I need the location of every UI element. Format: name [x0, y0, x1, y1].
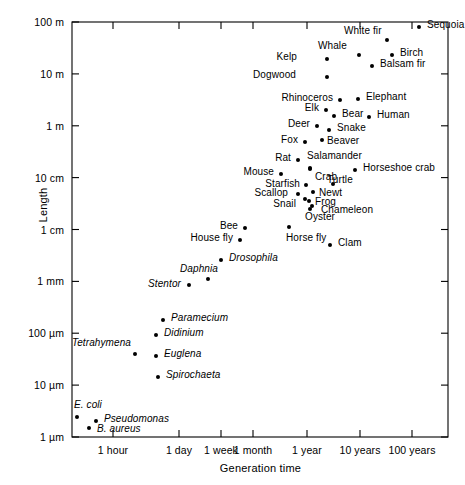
- data-point: [296, 192, 300, 196]
- data-point-label: Horse fly: [286, 233, 326, 243]
- data-point: [325, 75, 329, 79]
- data-point-label: Clam: [338, 238, 362, 248]
- data-point: [367, 115, 371, 119]
- data-point: [332, 114, 336, 118]
- data-point-label: Turtle: [327, 175, 353, 185]
- data-point: [308, 167, 312, 171]
- data-point-label: Human: [377, 110, 410, 120]
- x-tick-label: 100 years: [367, 444, 457, 456]
- data-point-label: Salamander: [307, 151, 362, 161]
- data-point-label: Stentor: [0, 279, 181, 289]
- data-point: [353, 168, 357, 172]
- data-point: [307, 199, 311, 203]
- data-point-label: House fly: [0, 233, 233, 243]
- data-point: [287, 225, 291, 229]
- data-point-label: Birch: [400, 48, 423, 58]
- y-tick-label: 1 µm: [0, 431, 64, 443]
- data-point-label: Rhinoceros: [0, 93, 333, 103]
- data-point: [328, 243, 332, 247]
- data-point-label: B. aureus: [97, 424, 141, 434]
- data-point: [338, 98, 342, 102]
- data-point-label: Oyster: [305, 212, 335, 222]
- data-point: [327, 128, 331, 132]
- data-point: [161, 318, 165, 322]
- data-point: [390, 53, 394, 57]
- y-tick-label: 10 µm: [0, 379, 64, 391]
- data-point-label: Daphnia: [180, 264, 218, 274]
- data-point-label: Elephant: [366, 92, 406, 102]
- data-point: [296, 158, 300, 162]
- data-point-label: Euglena: [164, 349, 201, 359]
- data-point-label: Sequoia: [427, 20, 464, 30]
- data-point-label: Scallop: [0, 188, 288, 198]
- data-point-label: Deer: [0, 119, 310, 129]
- data-point: [87, 426, 91, 430]
- data-point-label: Whale: [318, 41, 347, 51]
- data-point-label: Fox: [0, 135, 298, 145]
- data-point: [243, 226, 247, 230]
- data-point: [219, 258, 223, 262]
- data-point: [303, 197, 307, 201]
- scatter-plot-figure: Length Generation time 100 m10 m1 m10 cm…: [0, 0, 465, 485]
- x-axis-title: Generation time: [72, 462, 449, 474]
- data-point-label: Bear: [342, 109, 364, 119]
- data-point-label: Beaver: [327, 136, 359, 146]
- data-point: [206, 277, 210, 281]
- data-point: [154, 354, 158, 358]
- data-point: [417, 25, 421, 29]
- data-point: [315, 124, 319, 128]
- data-point-label: Elk: [0, 103, 319, 113]
- data-point-label: Horseshoe crab: [363, 163, 435, 173]
- data-point: [385, 38, 389, 42]
- data-point: [357, 53, 361, 57]
- data-point-label: Kelp: [0, 52, 297, 62]
- data-point-label: Drosophila: [229, 253, 278, 263]
- data-point: [320, 138, 324, 142]
- data-point-label: E. coli: [74, 400, 102, 410]
- data-point: [356, 97, 360, 101]
- data-point: [324, 108, 328, 112]
- data-point-label: Mouse: [0, 167, 274, 177]
- data-point: [325, 57, 329, 61]
- data-point-label: Spirochaeta: [166, 370, 220, 380]
- data-point: [279, 172, 283, 176]
- data-point: [238, 238, 242, 242]
- data-point-label: Snake: [337, 123, 366, 133]
- data-point-label: Bee: [0, 221, 238, 231]
- data-point: [311, 190, 315, 194]
- data-point-label: Rat: [0, 153, 291, 163]
- data-point: [156, 375, 160, 379]
- data-point-label: Paramecium: [171, 313, 228, 323]
- data-point: [133, 352, 137, 356]
- data-point-label: Tetrahymena: [0, 338, 131, 348]
- data-point: [370, 64, 374, 68]
- data-point-label: Didinium: [164, 328, 204, 338]
- data-point-label: Dogwood: [0, 70, 296, 80]
- data-point: [303, 140, 307, 144]
- y-tick-label: 100 m: [0, 16, 64, 28]
- data-point: [187, 283, 191, 287]
- data-point-label: Snail: [0, 199, 296, 209]
- data-point-label: White fir: [344, 26, 382, 36]
- data-point: [304, 183, 308, 187]
- data-point: [154, 333, 158, 337]
- data-point: [75, 415, 79, 419]
- data-point-label: Balsam fir: [380, 59, 425, 69]
